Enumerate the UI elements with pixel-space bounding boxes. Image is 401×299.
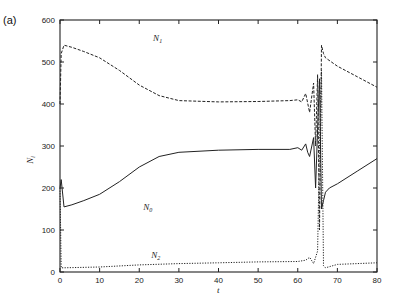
x-tick-label: 10: [95, 276, 104, 285]
x-tick-label: 30: [174, 276, 183, 285]
svg-text:t: t: [217, 285, 220, 295]
x-tick-label: 50: [254, 276, 263, 285]
x-tick-label: 70: [333, 276, 342, 285]
series-N2: [60, 70, 377, 267]
curve-label-N1: N1: [152, 33, 162, 44]
x-tick-label: 40: [214, 276, 223, 285]
y-tick-label: 200: [42, 184, 56, 193]
panel-label: (a): [3, 14, 16, 26]
svg-text:Ni: Ni: [25, 156, 36, 165]
y-tick-label: 0: [51, 268, 56, 277]
series-N1: [60, 45, 377, 230]
curve-labels: N1N0N2: [142, 33, 162, 261]
curve-label-N0: N0: [142, 202, 152, 213]
plot-frame: [60, 20, 377, 272]
x-tick-label: 20: [135, 276, 144, 285]
y-tick-label: 500: [42, 58, 56, 67]
y-tick-label: 100: [42, 226, 56, 235]
x-tick-label: 60: [293, 276, 302, 285]
y-tick-label: 300: [42, 142, 56, 151]
x-axis-label: t: [217, 285, 220, 295]
x-tick-label: 0: [58, 276, 63, 285]
y-tick-label: 400: [42, 100, 56, 109]
y-tick-label: 600: [42, 16, 56, 25]
curve-label-N2: N2: [150, 250, 160, 261]
population-time-series-chart: (a) 01020304050607080 010020030040050060…: [0, 0, 401, 299]
x-tick-label: 80: [373, 276, 382, 285]
x-axis-ticks: 01020304050607080: [58, 20, 382, 285]
y-axis-label: Ni: [25, 156, 36, 165]
series-N0: [60, 79, 377, 209]
data-series: [60, 45, 377, 268]
